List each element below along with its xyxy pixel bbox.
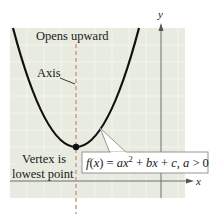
vertex-label-line2: lowest point <box>12 167 74 181</box>
y-axis-arrow-icon <box>159 23 164 31</box>
equation-text: f(x) = ax2 + bx + c, a > 0 <box>86 154 209 170</box>
y-axis-label: y <box>157 8 163 20</box>
x-axis-arrow-icon <box>186 179 194 184</box>
opens-upward-label: Opens upward <box>36 29 109 43</box>
parabola-diagram: x y Opens upward Axis Vertex is lowest p… <box>0 0 220 218</box>
axis-label: Axis <box>37 66 61 80</box>
vertex-point <box>73 144 79 150</box>
x-axis-label: x <box>195 175 201 187</box>
vertex-label-line1: Vertex is <box>22 152 66 166</box>
